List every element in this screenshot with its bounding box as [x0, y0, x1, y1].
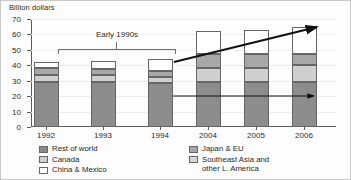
bar-segment: [34, 62, 59, 68]
gridline: [31, 96, 336, 97]
bar-segment: [244, 82, 269, 127]
gridline: [31, 65, 336, 66]
bar-segment: [244, 30, 269, 54]
gridline: [31, 19, 336, 20]
y-axis-label: 70: [12, 15, 21, 24]
x-axis-tick: [160, 127, 161, 130]
y-axis-tick: 10: [27, 112, 31, 113]
x-axis-label-2004: 2004: [199, 131, 217, 140]
bar-segment: [91, 75, 116, 82]
bar-segment: [148, 71, 173, 77]
canada-swatch: [39, 156, 48, 163]
y-axis-tick: 70: [27, 19, 31, 20]
early-1990s-bracket: Early 1990s: [58, 37, 176, 51]
legend-column-left: Rest of worldCanadaChina & Mexico: [39, 144, 107, 176]
legend-item-label: Japan & EU: [202, 144, 244, 153]
y-axis-label: 30: [12, 76, 21, 85]
bar-segment: [196, 82, 221, 128]
legend-item-label: Southeast Asia and other L. America: [202, 155, 269, 173]
chart-legend: Rest of worldCanadaChina & Mexico Japan …: [1, 144, 351, 180]
y-axis-tick: 50: [27, 50, 31, 51]
legend-item-label: Canada: [52, 155, 79, 164]
x-axis-label-2006: 2006: [295, 131, 313, 140]
bar-segment: [148, 83, 173, 127]
bar-segment: [91, 61, 116, 69]
y-axis-tick: 0: [27, 127, 31, 128]
bracket-horizontal-line: [58, 49, 176, 50]
china-mexico-swatch: [39, 167, 48, 174]
legend-item[interactable]: Japan & EU: [189, 144, 269, 153]
legend-item-label: Rest of world: [52, 144, 98, 153]
gridline: [31, 34, 336, 35]
y-axis-label: 0: [17, 123, 21, 132]
legend-item[interactable]: Rest of world: [39, 144, 107, 153]
bar-segment: [34, 75, 59, 81]
bar-segment: [34, 82, 59, 128]
x-axis-label-1993: 1993: [94, 131, 112, 140]
y-axis-title: Billion dollars: [9, 3, 55, 12]
rest-of-world-swatch: [39, 146, 48, 153]
y-axis-tick: 20: [27, 96, 31, 97]
bar-segment: [196, 31, 221, 53]
x-axis-tick: [256, 127, 257, 130]
legend-item[interactable]: Canada: [39, 155, 107, 164]
y-axis-tick: 30: [27, 81, 31, 82]
y-axis-label: 60: [12, 30, 21, 39]
bar-segment: [292, 65, 317, 81]
x-axis-label-1994: 1994: [151, 131, 169, 140]
gridline: [31, 81, 336, 82]
bar-segment: [148, 59, 173, 71]
stacked-bar-chart-figure: Billion dollars 010203040506070 19921993…: [0, 0, 351, 180]
southeast-asia-swatch: [189, 156, 198, 163]
x-axis-label-1992: 1992: [37, 131, 55, 140]
bar-segment: [292, 27, 317, 54]
legend-column-right: Japan & EUSoutheast Asia and other L. Am…: [189, 144, 269, 174]
bar-segment: [91, 69, 116, 75]
x-axis-tick: [208, 127, 209, 130]
japan-eu-swatch: [189, 146, 198, 153]
y-axis-label: 20: [12, 92, 21, 101]
y-axis-tick: 60: [27, 34, 31, 35]
y-axis-label: 40: [12, 61, 21, 70]
legend-item[interactable]: China & Mexico: [39, 165, 107, 174]
x-axis-label-2005: 2005: [247, 131, 265, 140]
bar-segment: [244, 54, 269, 68]
x-axis-tick: [304, 127, 305, 130]
bracket-left-tick: [58, 49, 59, 54]
x-axis-line: [31, 126, 336, 127]
bracket-right-tick: [175, 49, 176, 54]
legend-item[interactable]: Southeast Asia and other L. America: [189, 155, 269, 173]
x-axis-tick: [46, 127, 47, 130]
bar-segment: [196, 68, 221, 82]
bar-segment: [148, 77, 173, 83]
y-axis-label: 10: [12, 107, 21, 116]
plot-area: 010203040506070 199219931994200420052006: [31, 19, 336, 127]
bracket-center-stem: [116, 42, 117, 49]
bar-segment: [91, 82, 116, 127]
bracket-label: Early 1990s: [94, 30, 140, 39]
y-axis-label: 50: [12, 45, 21, 54]
bar-segment: [292, 54, 317, 66]
bar-segment: [196, 54, 221, 68]
bar-segment: [244, 68, 269, 83]
gridline: [31, 112, 336, 113]
legend-item-label: China & Mexico: [52, 165, 107, 174]
x-axis-tick: [103, 127, 104, 130]
bar-segment: [34, 68, 59, 75]
bar-segment: [292, 82, 317, 128]
y-axis-tick: 40: [27, 65, 31, 66]
